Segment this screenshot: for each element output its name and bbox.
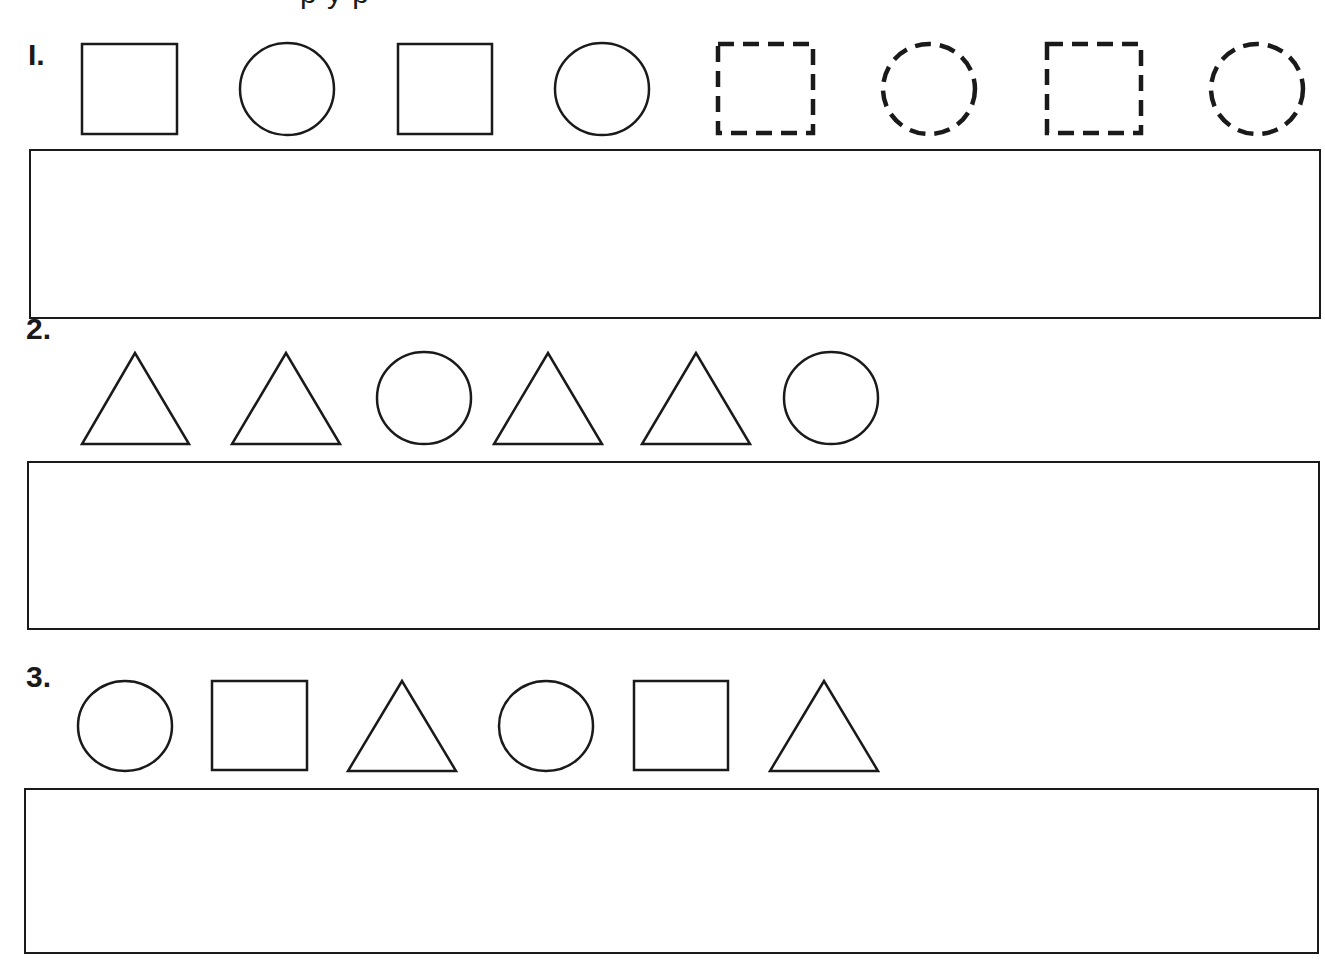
triangle-shape bbox=[642, 353, 750, 444]
circle-shape bbox=[377, 352, 471, 444]
answer-box-1[interactable] bbox=[29, 149, 1321, 319]
circle-shape bbox=[784, 352, 878, 444]
dashed-circle-shape bbox=[883, 44, 975, 134]
square-shape bbox=[82, 44, 177, 134]
answer-box-2[interactable] bbox=[27, 461, 1320, 630]
circle-shape bbox=[78, 681, 172, 771]
answer-box-3[interactable] bbox=[24, 788, 1319, 954]
problem-number-2: 2. bbox=[26, 314, 51, 344]
square-shape bbox=[398, 44, 492, 134]
triangle-shape bbox=[494, 353, 602, 444]
dashed-circle-shape bbox=[1211, 44, 1303, 134]
square-shape bbox=[634, 681, 728, 770]
dashed-square-shape bbox=[1047, 44, 1141, 133]
circle-shape bbox=[499, 681, 593, 771]
square-shape bbox=[212, 681, 307, 770]
triangle-shape bbox=[348, 681, 456, 771]
triangle-shape bbox=[770, 681, 878, 771]
triangle-shape bbox=[82, 353, 189, 444]
circle-shape bbox=[240, 43, 334, 135]
problem-number-3: 3. bbox=[26, 662, 51, 692]
dashed-square-shape bbox=[718, 44, 813, 133]
circle-shape bbox=[555, 43, 649, 135]
triangle-shape bbox=[232, 353, 340, 444]
